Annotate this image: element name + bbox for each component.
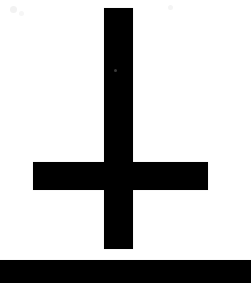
bottom-black-band	[0, 260, 251, 283]
scan-artifact-speck	[10, 6, 17, 13]
scan-artifact-speck	[168, 5, 173, 10]
inverted-cross-vertical-bar	[104, 8, 133, 249]
scan-artifact-speck	[19, 11, 24, 16]
image-canvas	[0, 0, 251, 283]
inverted-cross-horizontal-bar	[33, 162, 208, 190]
